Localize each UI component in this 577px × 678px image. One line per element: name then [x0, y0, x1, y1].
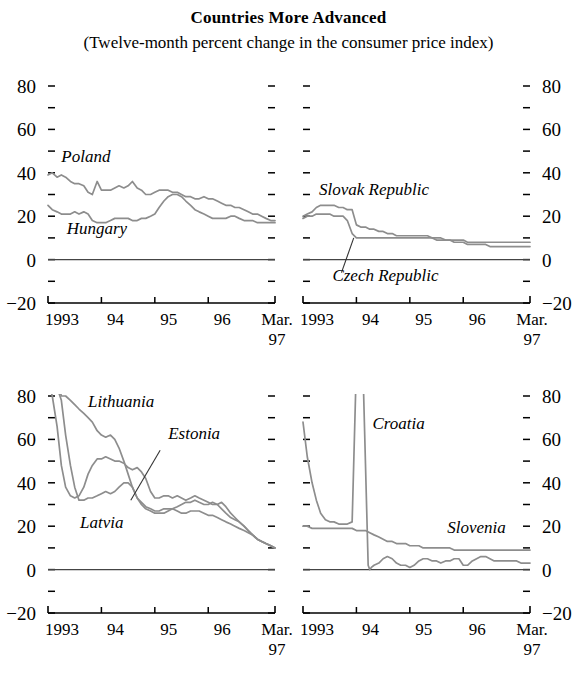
series-label-hungary: Hungary — [66, 219, 128, 238]
page-title: Countries More Advanced — [0, 8, 577, 28]
series-line-czech-republic — [303, 214, 530, 242]
svg-text:94: 94 — [362, 620, 380, 639]
svg-text:96: 96 — [214, 310, 231, 329]
svg-text:0: 0 — [27, 560, 37, 581]
series-label-croatia: Croatia — [372, 414, 424, 433]
page-subtitle: (Twelve-month percent change in the cons… — [0, 33, 577, 53]
svg-text:94: 94 — [362, 310, 380, 329]
svg-text:95: 95 — [415, 620, 432, 639]
svg-text:40: 40 — [17, 473, 36, 494]
svg-text:94: 94 — [107, 310, 125, 329]
svg-text:96: 96 — [214, 620, 231, 639]
svg-text:60: 60 — [542, 429, 561, 450]
svg-text:20: 20 — [17, 206, 36, 227]
series-label-poland: Poland — [60, 147, 111, 166]
series-label-slovak-republic: Slovak Republic — [319, 180, 429, 199]
svg-text:80: 80 — [542, 386, 561, 407]
series-label-czech-republic: Czech Republic — [332, 266, 439, 285]
panel-bottom-right: −200204060801993949596Mar.97CroatiaSlove… — [287, 376, 577, 678]
svg-text:94: 94 — [107, 620, 125, 639]
svg-text:60: 60 — [542, 119, 561, 140]
svg-text:1993: 1993 — [300, 620, 334, 639]
svg-text:0: 0 — [542, 250, 552, 271]
series-line-croatia — [303, 363, 530, 569]
svg-text:96: 96 — [469, 310, 486, 329]
svg-text:97: 97 — [524, 330, 542, 349]
svg-text:97: 97 — [524, 640, 542, 659]
svg-text:Mar.: Mar. — [516, 620, 548, 639]
panel-top-left: −200204060801993949596Mar.97PolandHungar… — [0, 66, 290, 370]
series-label-lithuania: Lithuania — [87, 392, 154, 411]
series-label-slovenia: Slovenia — [447, 518, 506, 537]
svg-text:40: 40 — [542, 473, 561, 494]
series-label-estonia: Estonia — [167, 424, 220, 443]
svg-text:80: 80 — [542, 76, 561, 97]
svg-text:−20: −20 — [6, 293, 36, 314]
series-line-slovak-republic — [303, 205, 530, 246]
svg-text:80: 80 — [17, 386, 36, 407]
svg-text:80: 80 — [17, 76, 36, 97]
svg-text:20: 20 — [542, 516, 561, 537]
svg-text:20: 20 — [17, 516, 36, 537]
svg-text:95: 95 — [160, 310, 177, 329]
svg-text:1993: 1993 — [300, 310, 334, 329]
svg-text:40: 40 — [17, 163, 36, 184]
svg-text:60: 60 — [17, 119, 36, 140]
svg-text:95: 95 — [160, 620, 177, 639]
svg-text:95: 95 — [415, 310, 432, 329]
svg-text:97: 97 — [269, 640, 287, 659]
svg-text:60: 60 — [17, 429, 36, 450]
svg-text:1993: 1993 — [45, 620, 79, 639]
panel-bottom-left: −200204060801993949596Mar.97LithuaniaLat… — [0, 376, 290, 678]
svg-text:Mar.: Mar. — [516, 310, 548, 329]
svg-text:−20: −20 — [6, 603, 36, 624]
panel-top-right: −200204060801993949596Mar.97Slovak Repub… — [287, 66, 577, 370]
svg-text:20: 20 — [542, 206, 561, 227]
svg-text:1993: 1993 — [45, 310, 79, 329]
svg-text:40: 40 — [542, 163, 561, 184]
svg-text:97: 97 — [269, 330, 287, 349]
svg-text:0: 0 — [542, 560, 552, 581]
svg-text:0: 0 — [27, 250, 37, 271]
series-label-latvia: Latvia — [79, 513, 123, 532]
svg-text:96: 96 — [469, 620, 486, 639]
